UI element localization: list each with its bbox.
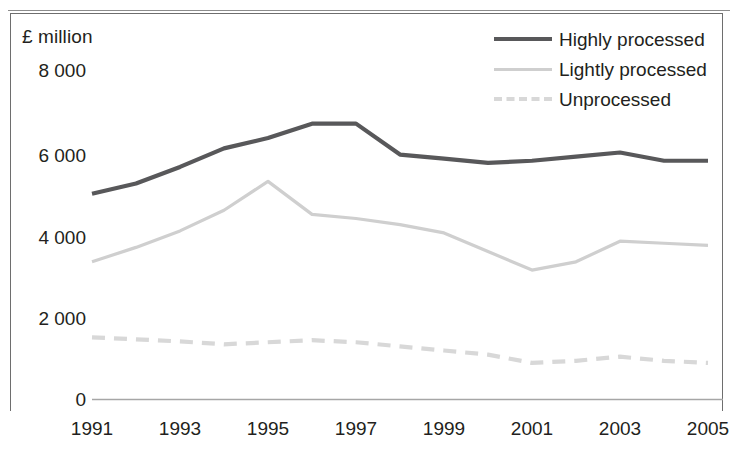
y-axis-tick-label: 4 000 <box>6 227 86 249</box>
legend-label: Unprocessed <box>559 90 671 109</box>
y-axis-title: £ million <box>22 26 93 48</box>
y-axis-tick-label: 8 000 <box>6 60 86 82</box>
y-axis-tick-label: 2 000 <box>6 308 86 330</box>
x-axis-tick-label: 2005 <box>673 418 733 440</box>
legend-line-swatch-icon <box>494 62 552 76</box>
cropped-title-rule <box>8 10 730 11</box>
y-axis-tick-label: 0 <box>6 389 86 411</box>
chart-legend: Highly processed Lightly processed Unpro… <box>494 24 730 114</box>
legend-item-unprocessed: Unprocessed <box>494 84 730 114</box>
legend-item-lightly-processed: Lightly processed <box>494 54 730 84</box>
y-axis-tick-label: 6 000 <box>6 145 86 167</box>
x-axis-tick-label: 1991 <box>57 418 127 440</box>
legend-dashed-line-swatch-icon <box>494 92 552 106</box>
legend-label: Highly processed <box>559 30 705 49</box>
x-axis-tick-label: 1999 <box>409 418 479 440</box>
x-axis-tick-label: 2003 <box>585 418 655 440</box>
legend-line-swatch-icon <box>494 32 552 46</box>
line-chart-figure: £ million 8 000 6 000 4 000 2 000 0 1991… <box>0 0 733 453</box>
x-axis-tick-label: 1993 <box>145 418 215 440</box>
legend-label: Lightly processed <box>559 60 707 79</box>
x-axis-tick-label: 2001 <box>497 418 567 440</box>
x-axis-tick-label: 1995 <box>233 418 303 440</box>
x-axis-tick-label: 1997 <box>321 418 391 440</box>
legend-item-highly-processed: Highly processed <box>494 24 730 54</box>
